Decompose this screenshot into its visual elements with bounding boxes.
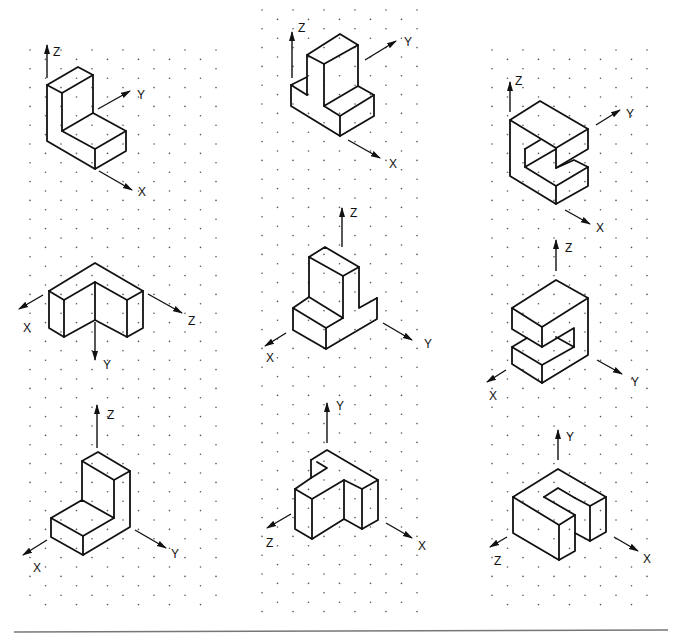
- y-axis-arrow: [383, 323, 412, 340]
- panel-9-u-block: Y Z X: [490, 430, 651, 568]
- y-axis-label: Y: [424, 337, 432, 351]
- y-axis-label: Y: [626, 107, 634, 121]
- panel-8-t-block: Y Z X: [266, 399, 426, 553]
- y-axis-label: Y: [566, 430, 574, 444]
- shape-1: [47, 67, 126, 169]
- x-axis-arrow: [265, 333, 286, 346]
- bottom-rule: [14, 630, 668, 632]
- z-axis-arrow: [148, 294, 182, 313]
- x-axis-label: X: [643, 552, 651, 566]
- panel-6-c-block: Z X Y: [487, 240, 639, 403]
- x-axis-arrow: [23, 540, 47, 555]
- z-axis-label: Z: [188, 314, 195, 328]
- y-axis-label: Y: [631, 375, 639, 389]
- z-axis-label: Z: [494, 554, 501, 568]
- z-axis-arrow: [267, 514, 291, 528]
- z-axis-label: Z: [107, 408, 114, 422]
- x-axis-label: X: [138, 185, 146, 199]
- x-axis-arrow: [19, 295, 43, 309]
- panel-1-l-bracket: Z Y X: [47, 45, 146, 199]
- panel-4-inverted-l: X Y Z: [19, 263, 195, 372]
- x-axis-arrow: [565, 210, 590, 224]
- x-axis-arrow: [348, 140, 380, 158]
- x-axis-label: X: [418, 539, 426, 553]
- y-axis-arrow: [135, 530, 166, 548]
- panel-3-c-block: Z Y X: [510, 74, 634, 235]
- x-axis-arrow: [614, 537, 638, 551]
- panel-2-t-block: Z Y X: [291, 21, 412, 171]
- x-axis-arrow: [386, 523, 412, 538]
- shape-4: [49, 263, 143, 337]
- y-axis-label: Y: [336, 399, 344, 413]
- x-axis-label: X: [23, 321, 31, 335]
- shape-9: [513, 469, 606, 560]
- shape-8: [295, 450, 378, 539]
- x-axis-label: X: [389, 157, 397, 171]
- z-axis-label: Z: [515, 74, 522, 88]
- y-axis-label: Y: [137, 88, 145, 102]
- z-axis-label: Z: [53, 45, 60, 59]
- z-axis-label: Z: [350, 206, 357, 220]
- shape-7: [51, 452, 130, 555]
- isometric-figure: Z Y X Z Y X: [0, 0, 673, 639]
- y-axis-arrow: [597, 360, 622, 374]
- x-axis-label: X: [33, 561, 41, 575]
- z-axis-label: Z: [298, 21, 305, 35]
- y-axis-label: Y: [404, 35, 412, 49]
- x-axis-label: X: [489, 389, 497, 403]
- x-axis-label: X: [266, 351, 274, 365]
- shape-5: [293, 247, 377, 349]
- x-axis-label: X: [596, 221, 604, 235]
- x-axis-arrow: [487, 370, 506, 382]
- shape-2: [291, 34, 374, 136]
- z-axis-label: Z: [266, 536, 273, 550]
- panel-5-t-block: Z X Y: [265, 206, 432, 365]
- z-axis-label: Z: [565, 241, 572, 255]
- y-axis-arrow: [596, 110, 620, 125]
- y-axis-label: Y: [103, 358, 111, 372]
- y-axis-label: Y: [171, 547, 179, 561]
- shape-3: [510, 101, 588, 204]
- x-axis-arrow: [99, 171, 132, 190]
- y-axis-arrow: [365, 41, 396, 60]
- y-axis-arrow: [98, 91, 130, 109]
- panel-7-l-bracket: Z X Y: [23, 405, 179, 575]
